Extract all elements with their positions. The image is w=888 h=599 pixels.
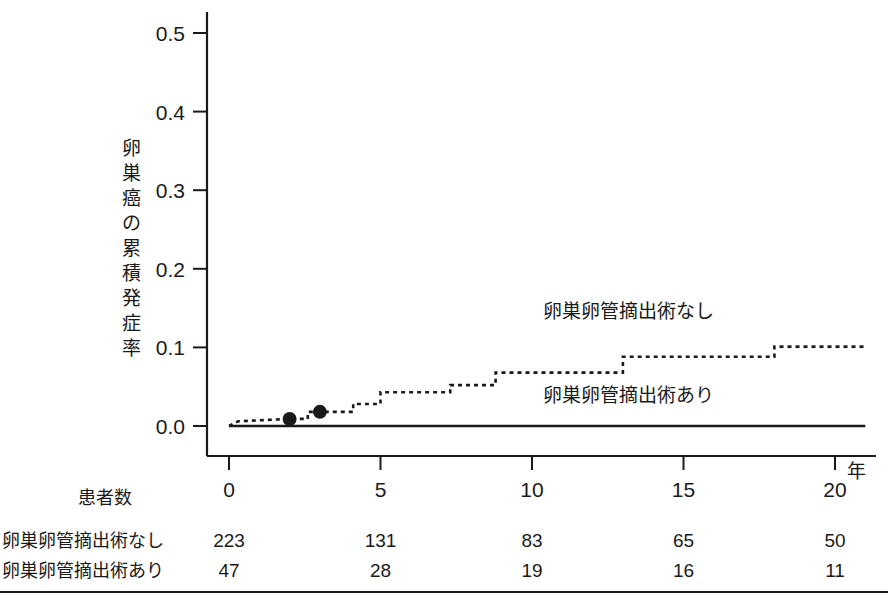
risk-value-0-1: 131 [365, 530, 397, 551]
y-axis-title: 卵巣癌の累積発症率 [122, 137, 141, 359]
y-tick-label-0.2: 0.2 [156, 258, 185, 281]
risk-row-label-0: 卵巣卵管摘出術なし [2, 530, 164, 551]
risk-value-0-2: 83 [521, 530, 542, 551]
censor-mark-0-1 [313, 405, 327, 419]
y-axis-title-char-5: 積 [122, 262, 141, 284]
risk-value-0-4: 50 [824, 530, 845, 551]
x-tick-label-15: 15 [672, 478, 695, 501]
y-tick-label-0.4: 0.4 [156, 101, 186, 124]
y-tick-label-0.5: 0.5 [156, 22, 185, 45]
x-tick-label-5: 5 [375, 478, 387, 501]
risk-value-1-2: 19 [521, 560, 542, 581]
y-axis-title-char-7: 症 [122, 312, 141, 334]
y-tick-label-0.0: 0.0 [156, 415, 185, 438]
x-axis-unit-label: 年 [847, 460, 866, 482]
series-label-1: 卵巣卵管摘出術あり [543, 384, 714, 406]
x-tick-label-20: 20 [823, 478, 846, 501]
y-axis-title-char-2: 癌 [122, 187, 141, 209]
y-tick-label-0.1: 0.1 [156, 336, 185, 359]
x-tick-label-10: 10 [520, 478, 543, 501]
risk-value-0-0: 223 [213, 530, 245, 551]
y-axis-title-char-0: 卵 [122, 137, 141, 159]
y-axis-title-char-1: 巣 [122, 162, 141, 184]
risk-value-0-3: 65 [673, 530, 694, 551]
risk-table-header: 患者数 [78, 487, 132, 508]
x-tick-label-0: 0 [223, 478, 235, 501]
y-axis-title-char-8: 率 [122, 337, 141, 359]
risk-value-1-1: 28 [370, 560, 391, 581]
series-label-0: 卵巣卵管摘出術なし [543, 300, 714, 322]
y-tick-label-0.3: 0.3 [156, 179, 185, 202]
risk-value-1-3: 16 [673, 560, 694, 581]
risk-row-label-1: 卵巣卵管摘出術あり [2, 560, 164, 581]
risk-value-1-0: 47 [218, 560, 239, 581]
cumulative-incidence-chart: 0.00.10.20.30.40.5 05101520 年 卵巣癌の累積発症率 … [0, 0, 888, 599]
y-axis-title-char-4: 累 [122, 237, 141, 259]
censor-mark-0-0 [283, 412, 297, 426]
risk-value-1-4: 11 [825, 560, 845, 581]
y-axis-title-char-3: の [122, 212, 141, 234]
y-axis-title-char-6: 発 [122, 287, 141, 309]
